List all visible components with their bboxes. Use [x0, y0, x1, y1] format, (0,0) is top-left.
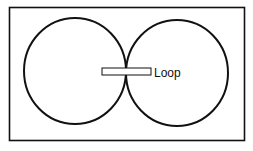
- radiation-pattern-diagram: Loop: [0, 0, 253, 151]
- loop-antenna: [102, 68, 151, 75]
- loop-label: Loop: [154, 66, 181, 80]
